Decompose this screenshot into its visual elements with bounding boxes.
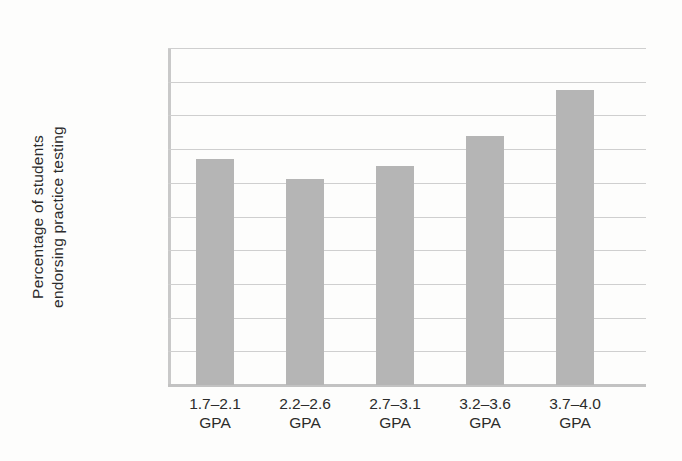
x-tick-unit: GPA bbox=[165, 413, 265, 432]
y-axis-title: Percentage of students endorsing practic… bbox=[26, 48, 70, 386]
bar bbox=[196, 159, 234, 385]
bar-slot bbox=[456, 48, 514, 385]
bar-slot bbox=[276, 48, 334, 385]
x-axis-tick-label: 2.2–2.6GPA bbox=[255, 394, 355, 432]
x-axis-tick-label: 3.2–3.6GPA bbox=[435, 394, 535, 432]
bar-slot bbox=[366, 48, 424, 385]
x-tick-unit: GPA bbox=[345, 413, 445, 432]
bar bbox=[376, 166, 414, 385]
bar bbox=[466, 136, 504, 385]
plot-area: 0102030405060708090100% bbox=[168, 48, 646, 385]
bar-slot bbox=[186, 48, 244, 385]
bar-slot bbox=[546, 48, 604, 385]
x-tick-range: 3.7–4.0 bbox=[549, 395, 601, 412]
bar-series bbox=[168, 48, 646, 385]
bar bbox=[286, 179, 324, 385]
x-tick-range: 2.7–3.1 bbox=[369, 395, 421, 412]
x-tick-range: 3.2–3.6 bbox=[459, 395, 511, 412]
x-tick-range: 1.7–2.1 bbox=[189, 395, 241, 412]
y-axis-title-line-1: Percentage of students bbox=[29, 135, 46, 299]
x-tick-unit: GPA bbox=[525, 413, 625, 432]
x-axis-tick-label: 2.7–3.1GPA bbox=[345, 394, 445, 432]
x-tick-unit: GPA bbox=[435, 413, 535, 432]
x-axis-tick-label: 3.7–4.0GPA bbox=[525, 394, 625, 432]
x-tick-range: 2.2–2.6 bbox=[279, 395, 331, 412]
bar-chart-figure: Percentage of students endorsing practic… bbox=[0, 0, 682, 461]
y-axis-title-line-2: endorsing practice testing bbox=[48, 126, 68, 308]
bar bbox=[556, 90, 594, 385]
x-tick-unit: GPA bbox=[255, 413, 355, 432]
x-axis-tick-label: 1.7–2.1GPA bbox=[165, 394, 265, 432]
